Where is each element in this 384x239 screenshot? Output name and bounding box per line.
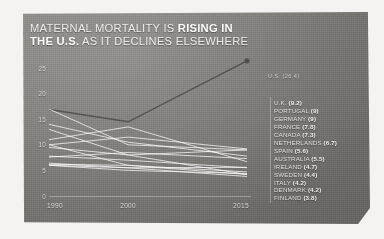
legend-item-value: (7.3) [302, 131, 315, 138]
legend-item: SPAIN (5.6) [274, 147, 370, 155]
x-axis-line [49, 196, 251, 197]
y-tick-label: 10 [24, 141, 46, 148]
legend-item: ITALY (4.2) [274, 179, 370, 187]
title-line1-plain: MATERNAL MORTALITY IS [30, 22, 178, 34]
y-axis: 2520151050 [22, 68, 46, 196]
us-endpoint-dot [244, 58, 249, 63]
legend-item-value: (5.5) [311, 155, 324, 162]
legend-item: CANADA (7.3) [274, 131, 370, 139]
legend-item-country: FRANCE [274, 123, 302, 130]
screenshot-root: MATERNAL MORTALITY IS RISING IN THE U.S.… [0, 0, 384, 239]
legend-item: PORTUGAL (9) [274, 107, 370, 115]
legend-item-value: (4.2) [293, 179, 306, 186]
y-tick-label: 0 [24, 193, 46, 200]
legend-item-country: CANADA [274, 131, 302, 138]
legend-item: SWEDEN (4.4) [274, 171, 370, 179]
series-lines [49, 68, 247, 196]
legend-item-country: PORTUGAL [274, 107, 311, 114]
legend-item-value: (9.2) [289, 99, 302, 106]
legend-item: DENMARK (4.2) [274, 186, 370, 194]
legend-item-country: SWEDEN [274, 171, 304, 178]
legend-item: GERMANY (9) [274, 115, 370, 123]
legend-item-country: DENMARK [274, 186, 308, 193]
series-line-us [49, 61, 247, 122]
legend-item: FRANCE (7.8) [274, 123, 370, 131]
series-line [49, 109, 247, 150]
chart-panel: MATERNAL MORTALITY IS RISING IN THE U.S.… [22, 12, 370, 224]
legend-item-country: NETHERLANDS [274, 139, 324, 146]
title-line2-bold: THE U.S. [30, 35, 79, 47]
legend-item-value: (4.4) [304, 171, 317, 178]
legend-item: AUSTRALIA (5.5) [274, 155, 370, 163]
legend-item-value: (4.7) [304, 163, 317, 170]
x-tick-label: 1990 [47, 202, 63, 209]
legend-divider-rule [270, 97, 271, 203]
title-line2-plain: AS IT DECLINES ELSEWHERE [79, 35, 248, 47]
legend-item-country: IRELAND [274, 163, 304, 170]
legend-item-value: (9) [311, 107, 319, 114]
legend-item-value: (5.6) [295, 147, 308, 154]
legend-item: NETHERLANDS (6.7) [274, 139, 370, 147]
legend-item-country: ITALY [274, 179, 293, 186]
legend: U.K. (9.2)PORTUGAL (9)GERMANY (9)FRANCE … [274, 99, 370, 202]
legend-item-value: (6.7) [324, 139, 337, 146]
title-line1-bold: RISING IN [178, 22, 233, 34]
legend-item-country: AUSTRALIA [274, 155, 311, 162]
y-tick-label: 5 [24, 167, 46, 174]
legend-item: U.K. (9.2) [274, 99, 370, 107]
legend-item: FINLAND (3.8) [274, 194, 370, 202]
legend-item-value: (3.8) [303, 194, 316, 201]
x-tick-label: 2015 [233, 202, 249, 209]
x-axis: 199020002015 [49, 202, 259, 214]
x-tick-label: 2000 [120, 202, 136, 209]
legend-item-country: FINLAND [274, 194, 303, 201]
plot-area [49, 68, 247, 196]
legend-item-value: (4.2) [308, 186, 321, 193]
legend-item-country: GERMANY [274, 115, 308, 122]
y-tick-label: 20 [24, 90, 46, 97]
y-tick-label: 25 [24, 65, 46, 72]
chart-title: MATERNAL MORTALITY IS RISING IN THE U.S.… [30, 22, 280, 47]
legend-item-value: (9) [308, 115, 316, 122]
legend-item-value: (7.8) [302, 123, 315, 130]
legend-item: IRELAND (4.7) [274, 163, 370, 171]
legend-item-country: SPAIN [274, 147, 295, 154]
legend-item-country: U.K. [274, 99, 289, 106]
y-tick-label: 15 [24, 116, 46, 123]
us-endpoint-label: U.S. (26.4) [268, 73, 299, 79]
